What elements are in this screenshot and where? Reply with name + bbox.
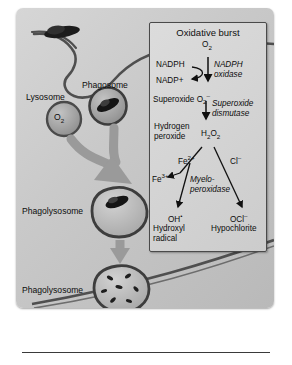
label-myeloperoxidase: Myelo-peroxidase (190, 175, 230, 194)
figure-oxidative-burst: Lysosome Phagosome O2 Phagolysosome Phag… (0, 0, 292, 365)
label-hypochlorite-formula: OCl– (230, 211, 248, 224)
label-hydroxyl-radical: Hydroxylradical (153, 224, 185, 243)
label-chloride: Cl– (230, 153, 241, 166)
label-nadph: NADPH (156, 60, 185, 70)
label-phagolysosome-2: Phagolysosome (22, 285, 83, 295)
label-lysosome: Lysosome (26, 92, 65, 102)
phagolysosome-vesicle-1 (92, 188, 147, 237)
label-hypochlorite: Hypochlorite (211, 224, 257, 234)
figure-frame: Lysosome Phagosome O2 Phagolysosome Phag… (16, 8, 274, 308)
label-phagosome: Phagosome (82, 80, 128, 90)
label-fe2: Fe2+ (178, 153, 195, 166)
figure-divider (22, 352, 270, 353)
label-nadph-oxidase: NADPHoxidase (214, 60, 243, 79)
label-oxygen: O2 (202, 40, 212, 52)
label-superoxide-dismutase: Superoxidedismutase (212, 99, 253, 118)
phagosome-vesicle (90, 88, 127, 125)
phagolysosome-vesicle-2 (94, 266, 149, 308)
fusion-arrow (71, 128, 116, 164)
label-hydroxyl-formula: OH• (168, 211, 182, 224)
label-oxygen-vesicle: O2 (54, 112, 64, 124)
label-fe3: Fe3+ (152, 171, 169, 184)
oxidative-burst-panel: Oxidative burst O (149, 22, 267, 252)
digestion-arrow (110, 240, 130, 264)
label-nadp-plus: NADP+ (156, 76, 184, 86)
label-phagolysosome-1: Phagolysosome (22, 206, 83, 216)
label-h2o2: H2O2 (201, 129, 220, 141)
label-hydrogen-peroxide: Hydrogenperoxide (154, 122, 190, 141)
label-superoxide: Superoxide O2– (153, 91, 210, 107)
